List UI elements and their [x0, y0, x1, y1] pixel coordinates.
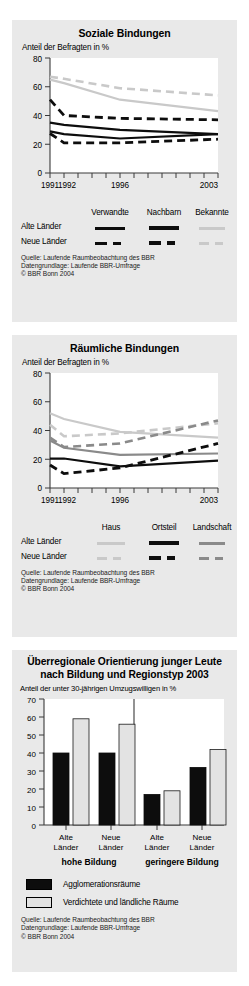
- panel2-legend-label-alte: Alte Länder: [21, 537, 61, 546]
- panel1-legend-label-alte: Alte Länder: [21, 222, 61, 231]
- panel2-swatch-ortsteil-alte: [149, 541, 179, 545]
- panel2-xtick-1992: 1992: [58, 496, 77, 505]
- panel2-ytick-20: 20: [33, 455, 43, 464]
- panel3-legend: Agglomerationsräume Verdichtete und länd…: [12, 877, 237, 910]
- panel1-swatch-nachbarn-neue-b: [167, 241, 175, 245]
- panel3-title: Überregionale Orientierung junger Leute …: [12, 650, 237, 681]
- panel3-title-line2: nach Bildung und Regionstyp 2003: [12, 669, 237, 682]
- panel3-ytick-60: 60: [27, 714, 36, 723]
- panel3-bar-g2-alte-verdichtet: [164, 791, 180, 825]
- panel-soziale-bindungen: Soziale Bindungen Anteil der Befragten i…: [12, 20, 237, 322]
- panel1-plot: 80 60 40 20 0: [12, 54, 237, 204]
- panel2-swatch-landschaft-neue-b: [215, 557, 223, 560]
- panel3-axis-label: Anteil der unter 30-jährigen Umzugswilli…: [12, 681, 237, 693]
- panel2-swatch-landschaft-alte: [199, 542, 225, 545]
- panel3-source-line1: Quelle: Laufende Raumbeobachtung des BBR: [21, 916, 237, 924]
- panel1-source: Quelle: Laufende Raumbeobachtung des BBR…: [12, 252, 237, 279]
- panel1-swatch-bekannte-alte: [199, 227, 225, 230]
- panel2-xtick-1991: 1991: [41, 496, 60, 505]
- panel1-legend-row-neue: Neue Länder: [12, 236, 237, 251]
- panel3-source: Quelle: Laufende Raumbeobachtung des BBR…: [12, 913, 237, 941]
- panel3-legend-label-0: Agglomerationsräume: [63, 880, 140, 889]
- panel1-swatch-bekannte-neue-b: [215, 242, 223, 245]
- panel3-bar-g1-alte-agglo: [53, 753, 69, 825]
- panel1-legend-head-1: Nachbarn: [140, 208, 188, 217]
- panel1-legend-row-alte: Alte Länder: [12, 221, 237, 236]
- panel3-ytick-0: 0: [32, 822, 37, 831]
- panel2-axis-label: Anteil der Befragten in %: [12, 355, 237, 367]
- panel3-cat-1-line2: Länder: [99, 843, 124, 852]
- panel1-source-line2: Datengrundlage: Laufende BBR-Umfrage: [21, 262, 237, 270]
- panel2-legend-head-1: Ortsteil: [140, 523, 188, 532]
- panel1-legend-head-2: Bekannte: [190, 208, 234, 217]
- panel1-xtick-1996: 1996: [111, 181, 130, 190]
- panel3-source-line2: Datengrundlage: Laufende BBR-Umfrage: [21, 924, 237, 932]
- panel2-swatch-haus-neue-b: [113, 557, 121, 560]
- panel3-ytick-10: 10: [27, 804, 36, 813]
- panel2-legend: Haus Ortsteil Landschaft Alte Länder Neu…: [12, 523, 237, 567]
- panel3-cat-2-line1: Alte: [150, 833, 164, 842]
- panel3-title-line1: Überregionale Orientierung junger Leute: [12, 656, 237, 669]
- panel3-legend-swatch-verdichtete-raeume: [26, 897, 52, 908]
- panel2-xtick-1996: 1996: [111, 496, 130, 505]
- panel2-source-line3: © BBR Bonn 2004: [21, 585, 237, 593]
- infographic-page: Soziale Bindungen Anteil der Befragten i…: [0, 0, 249, 986]
- panel2-ytick-0: 0: [37, 484, 42, 493]
- panel2-svg: 80 60 40 20 0: [12, 369, 237, 519]
- panel1-svg: 80 60 40 20 0: [12, 54, 237, 204]
- panel3-ytick-30: 30: [27, 768, 36, 777]
- panel3-ytick-20: 20: [27, 786, 36, 795]
- panel3-svg: 70 60 50 40 30 20 10 0: [12, 695, 237, 873]
- panel3-plot: 70 60 50 40 30 20 10 0: [12, 695, 237, 873]
- panel1-ytick-80: 80: [33, 54, 43, 63]
- panel1-swatch-verwandte-neue-b: [113, 242, 121, 245]
- panel-ueberregionale-orientierung: Überregionale Orientierung junger Leute …: [12, 650, 237, 972]
- panel2-xtick-2003: 2003: [200, 496, 219, 505]
- panel3-bar-g2-alte-agglo: [144, 794, 160, 825]
- panel2-source-line1: Quelle: Laufende Raumbeobachtung des BBR: [21, 569, 237, 577]
- panel2-swatch-landschaft-neue-a: [199, 557, 209, 560]
- panel3-cat-0-line2: Länder: [54, 843, 79, 852]
- panel3-legend-item-1: Verdichtete und ländliche Räume: [26, 895, 237, 910]
- panel3-source-line3: © BBR Bonn 2004: [21, 933, 237, 941]
- panel3-legend-item-0: Agglomerationsräume: [26, 877, 237, 892]
- panel2-ytick-80: 80: [33, 369, 43, 378]
- panel3-cat-0-line1: Alte: [59, 833, 73, 842]
- panel2-swatch-haus-neue-a: [97, 557, 107, 560]
- panel2-legend-label-neue: Neue Länder: [21, 552, 67, 561]
- panel3-legend-label-1: Verdichtete und ländliche Räume: [63, 898, 179, 907]
- panel1-swatch-bekannte-neue-a: [199, 242, 209, 245]
- panel3-cat-1-line1: Neue: [101, 833, 121, 842]
- panel2-ytick-60: 60: [33, 398, 43, 407]
- panel1-axis-label: Anteil der Befragten in %: [12, 40, 237, 52]
- panel3-cat-3-line1: Neue: [192, 833, 212, 842]
- panel2-swatch-ortsteil-neue-b: [167, 556, 175, 560]
- panel3-legend-swatch-agglomerationsraeume: [26, 879, 52, 890]
- panel1-xtick-1992: 1992: [58, 181, 77, 190]
- panel1-ytick-20: 20: [33, 140, 43, 149]
- panel3-ytick-50: 50: [27, 732, 36, 741]
- panel2-ytick-40: 40: [33, 426, 43, 435]
- panel2-legend-head-0: Haus: [88, 523, 134, 532]
- panel1-legend: Verwandte Nachbarn Bekannte Alte Länder …: [12, 208, 237, 252]
- panel1-title: Soziale Bindungen: [12, 20, 237, 40]
- panel1-swatch-nachbarn-alte: [149, 226, 179, 230]
- panel2-source-line2: Datengrundlage: Laufende BBR-Umfrage: [21, 577, 237, 585]
- panel3-cat-2-line2: Länder: [145, 843, 170, 852]
- panel3-bar-g1-alte-verdichtet: [73, 719, 89, 825]
- panel3-group-label-1: geringere Bildung: [145, 857, 219, 867]
- panel1-xtick-2003: 2003: [200, 181, 219, 190]
- panel2-legend-head-2: Landschaft: [188, 523, 236, 532]
- panel1-ytick-60: 60: [33, 83, 43, 92]
- panel1-ytick-0: 0: [37, 169, 42, 178]
- panel2-source: Quelle: Laufende Raumbeobachtung des BBR…: [12, 567, 237, 594]
- panel3-ytick-40: 40: [27, 750, 36, 759]
- panel3-bar-g2-neue-agglo: [190, 767, 206, 825]
- panel3-ytick-70: 70: [27, 696, 36, 705]
- panel1-xtick-1991: 1991: [41, 181, 60, 190]
- panel3-group-label-0: hohe Bildung: [62, 857, 117, 867]
- panel1-swatch-verwandte-alte: [95, 227, 125, 230]
- panel2-swatch-haus-alte: [97, 542, 125, 545]
- panel2-legend-row-alte: Alte Länder: [12, 536, 237, 551]
- panel-raeumliche-bindungen: Räumliche Bindungen Anteil der Befragten…: [12, 335, 237, 637]
